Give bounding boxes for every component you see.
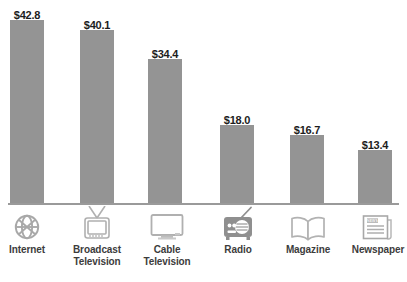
magazine-icon <box>269 206 347 242</box>
bar-slot-magazine: $16.7 <box>273 0 341 206</box>
category-label-line1: Cable <box>128 244 206 256</box>
category-label-line1: Newspaper <box>339 244 407 256</box>
radio-icon <box>199 206 277 242</box>
bar-slot-broadcast-television: $40.1 <box>63 0 131 206</box>
flatscreen-tv-icon <box>128 206 206 242</box>
plot-area: $42.8 $40.1 $34.4 $18.0 $16.7 $13.4 <box>0 0 407 206</box>
category-magazine: Magazine <box>269 206 347 256</box>
bar-slot-radio: $18.0 <box>203 0 271 206</box>
category-label-line2: Television <box>58 256 136 268</box>
category-broadcast-television: Broadcast Television <box>58 206 136 268</box>
category-newspaper: NEWS Newspaper <box>339 206 407 256</box>
category-internet: Internet <box>0 206 66 256</box>
newspaper-icon: NEWS <box>339 206 407 242</box>
bar-magazine <box>290 135 324 203</box>
x-axis-baseline <box>8 203 399 205</box>
bar-slot-internet: $42.8 <box>0 0 61 206</box>
bar-cable-television <box>148 59 182 203</box>
bar-chart: $42.8 $40.1 $34.4 $18.0 $16.7 $13.4 <box>0 0 407 282</box>
category-label: Internet <box>0 244 66 256</box>
category-label: Cable Television <box>128 244 206 268</box>
category-label: Radio <box>199 244 277 256</box>
category-label: Broadcast Television <box>58 244 136 268</box>
category-label-line2: Television <box>128 256 206 268</box>
category-label-line1: Magazine <box>269 244 347 256</box>
bar-broadcast-television <box>80 30 114 203</box>
globe-icon <box>0 206 66 242</box>
bar-internet <box>10 20 44 203</box>
category-cable-television: Cable Television <box>128 206 206 268</box>
crt-tv-icon <box>58 206 136 242</box>
bar-radio <box>220 125 254 203</box>
category-label-line1: Internet <box>0 244 66 256</box>
bar-slot-cable-television: $34.4 <box>131 0 199 206</box>
bar-newspaper <box>358 150 392 203</box>
category-label: Newspaper <box>339 244 407 256</box>
newspaper-masthead-text: NEWS <box>367 219 378 223</box>
category-radio: Radio <box>199 206 277 256</box>
category-label-line1: Broadcast <box>58 244 136 256</box>
category-label-line1: Radio <box>199 244 277 256</box>
bar-slot-newspaper: $13.4 <box>341 0 407 206</box>
category-axis: Internet <box>0 206 407 282</box>
category-label: Magazine <box>269 244 347 256</box>
